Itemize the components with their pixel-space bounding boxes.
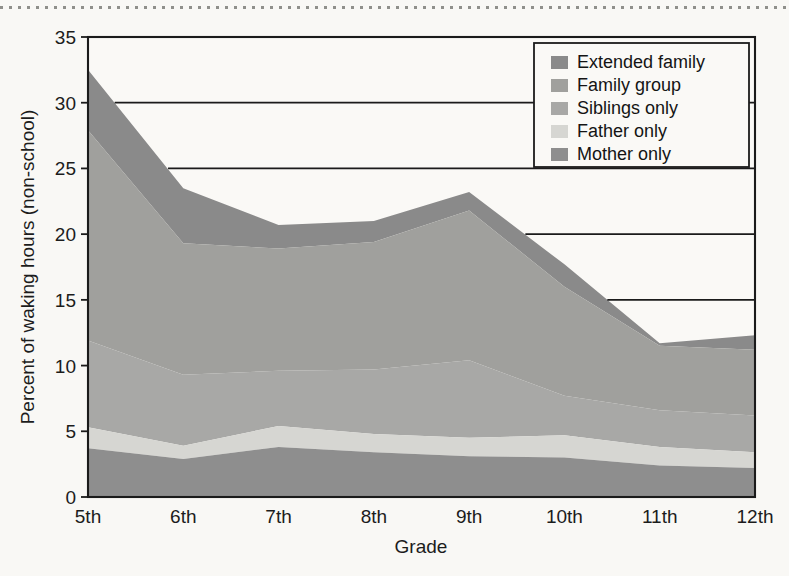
y-axis-tick-labels: 05101520253035 <box>55 27 88 508</box>
x-tick-6th: 6th <box>170 506 196 527</box>
figure-container: 05101520253035 5th6th7th8th9th10th11th12… <box>0 0 789 576</box>
y-tick-5: 5 <box>65 421 76 442</box>
x-tick-9th: 9th <box>456 506 482 527</box>
legend-label-siblings-only: Siblings only <box>577 98 678 118</box>
legend-label-father-only: Father only <box>577 121 667 141</box>
y-tick-10: 10 <box>55 356 76 377</box>
legend-label-mother-only: Mother only <box>577 144 671 164</box>
x-tick-10th: 10th <box>546 506 583 527</box>
x-axis-title: Grade <box>395 536 448 557</box>
stacked-area-chart: 05101520253035 5th6th7th8th9th10th11th12… <box>0 0 789 576</box>
legend: Extended familyFamily groupSiblings only… <box>534 43 749 167</box>
y-tick-0: 0 <box>65 487 76 508</box>
y-tick-15: 15 <box>55 290 76 311</box>
legend-swatch-father-only <box>551 125 568 138</box>
y-tick-20: 20 <box>55 224 76 245</box>
y-tick-25: 25 <box>55 158 76 179</box>
y-tick-35: 35 <box>55 27 76 48</box>
x-tick-8th: 8th <box>361 506 387 527</box>
legend-label-extended-family: Extended family <box>577 52 705 72</box>
legend-swatch-mother-only <box>551 148 568 161</box>
legend-label-family-group: Family group <box>577 75 681 95</box>
legend-swatch-family-group <box>551 79 568 92</box>
legend-swatch-extended-family <box>551 56 568 69</box>
legend-swatch-siblings-only <box>551 102 568 115</box>
x-tick-5th: 5th <box>75 506 101 527</box>
y-axis-title: Percent of waking hours (non-school) <box>17 110 38 425</box>
y-tick-30: 30 <box>55 93 76 114</box>
x-tick-7th: 7th <box>265 506 291 527</box>
x-tick-11th: 11th <box>642 506 678 527</box>
x-tick-12th: 12th <box>737 506 774 527</box>
x-axis-tick-labels: 5th6th7th8th9th10th11th12th <box>75 506 774 527</box>
